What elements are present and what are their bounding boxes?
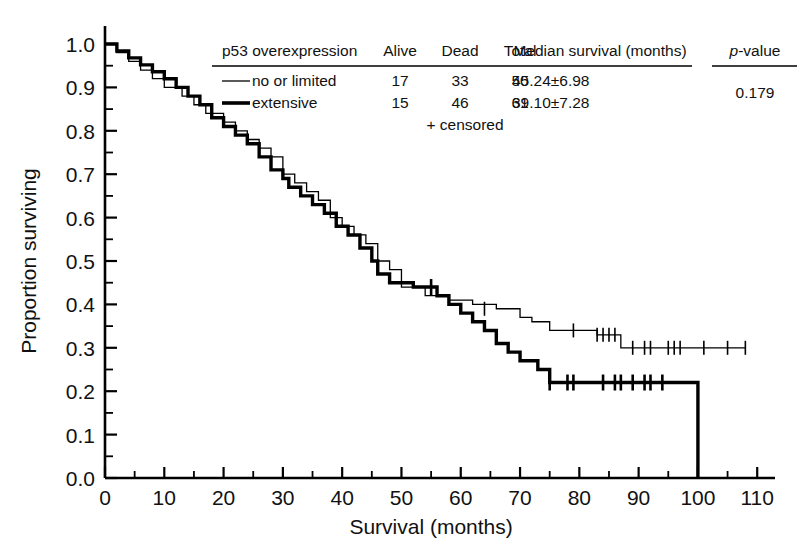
legend-header-group: p53 overexpression — [222, 42, 357, 59]
legend-row-dead: 33 — [451, 72, 468, 89]
legend-header-alive: Alive — [383, 42, 417, 59]
y-tick-label: 0.0 — [66, 467, 95, 490]
x-tick-label: 110 — [740, 486, 773, 509]
survival-figure: 01020304050607080901001100.00.10.20.30.4… — [0, 0, 806, 553]
legend-header-pvalue: p-value — [729, 42, 781, 59]
y-axis-title: Proportion surviving — [17, 168, 40, 354]
x-tick-label: 50 — [390, 486, 413, 509]
y-tick-label: 0.1 — [66, 424, 95, 447]
y-tick-label: 0.5 — [66, 250, 95, 273]
x-tick-label: 60 — [449, 486, 472, 509]
legend-row-dead: 46 — [451, 94, 468, 111]
x-tick-label: 70 — [508, 486, 531, 509]
legend-row-alive: 17 — [391, 72, 408, 89]
x-axis-title: Survival (months) — [349, 515, 512, 538]
censored-note: + censored — [426, 116, 503, 133]
legend-row-alive: 15 — [391, 94, 408, 111]
x-tick-label: 40 — [330, 486, 353, 509]
legend-row-median: 45.24±6.98 — [512, 72, 589, 89]
legend-row-median: 39.10±7.28 — [512, 94, 589, 111]
x-tick-label: 20 — [212, 486, 235, 509]
legend-row-label: extensive — [252, 94, 317, 111]
y-tick-label: 0.6 — [66, 207, 95, 230]
y-tick-label: 0.4 — [66, 293, 96, 316]
x-tick-label: 100 — [680, 486, 715, 509]
y-tick-label: 0.9 — [66, 76, 95, 99]
legend-pvalue-value: 0.179 — [736, 84, 775, 101]
y-tick-label: 0.3 — [66, 337, 95, 360]
x-tick-label: 30 — [271, 486, 294, 509]
legend-header-median: Median survival (months) — [513, 42, 686, 59]
y-tick-label: 0.8 — [66, 120, 95, 143]
pvalue-italic-p: p — [729, 42, 739, 59]
x-tick-label: 80 — [568, 486, 591, 509]
y-tick-label: 0.7 — [66, 163, 95, 186]
x-tick-label: 90 — [627, 486, 650, 509]
y-tick-label: 1.0 — [66, 33, 95, 56]
legend-header-dead: Dead — [441, 42, 478, 59]
survival-curve-0 — [105, 44, 745, 348]
y-tick-label: 0.2 — [66, 380, 95, 403]
kaplan-meier-chart: 01020304050607080901001100.00.10.20.30.4… — [0, 0, 806, 553]
x-tick-label: 0 — [99, 486, 111, 509]
pvalue-suffix: -value — [738, 42, 780, 59]
legend-row-label: no or limited — [252, 72, 336, 89]
x-tick-label: 10 — [153, 486, 176, 509]
